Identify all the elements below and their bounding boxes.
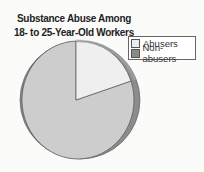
legend-item-non-abusers: Non-abusers: [131, 48, 193, 58]
legend-swatch-non-abusers: [131, 49, 140, 58]
chart-legend: Abusers Non-abusers: [128, 36, 196, 60]
pie-chart: [0, 0, 204, 172]
legend-swatch-abusers: [131, 39, 140, 48]
legend-label-non-abusers: Non-abusers: [143, 42, 194, 64]
